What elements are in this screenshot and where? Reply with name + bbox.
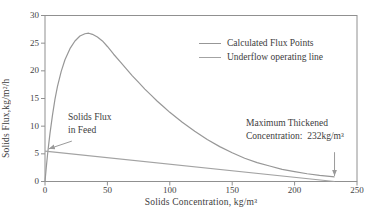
annotation-max-thickened-concentration: Maximum Thickened Concentration: 232kg/m… [246,117,344,142]
x-axis-title: Solids Concentration, kg/m³ [45,197,357,207]
legend-line-sample [199,57,221,58]
annotation-text-line: in Feed [68,124,112,137]
annotation-text-line: Concentration: 232kg/m³ [246,130,344,143]
x-tick-label: 50 [103,185,112,195]
x-tick-label: 250 [350,185,364,195]
legend-item-calculated-flux: Calculated Flux Points [199,36,323,50]
annotation-arrow-0 [49,141,72,149]
y-axis-title: Solids Flux,kg/m²/h [1,60,12,176]
y-tick-label: 0 [13,176,39,186]
x-tick-label: 200 [288,185,302,195]
y-tick-label: 30 [13,10,39,20]
annotation-text-line: Solids Flux [68,111,112,124]
legend-line-sample [199,43,221,44]
annotation-solids-flux-in-feed: Solids Flux in Feed [68,111,112,136]
legend-label: Underflow operating line [227,52,323,62]
annotation-text-line: Maximum Thickened [246,117,344,130]
plot-canvas [0,0,375,223]
y-tick-label: 10 [13,121,39,131]
y-tick-label: 20 [13,65,39,75]
y-tick-label: 25 [13,38,39,48]
legend: Calculated Flux Points Underflow operati… [199,36,323,64]
legend-item-underflow-line: Underflow operating line [199,50,323,64]
x-tick-label: 0 [43,185,48,195]
y-tick-label: 15 [13,93,39,103]
legend-label: Calculated Flux Points [227,38,314,48]
x-tick-label: 100 [163,185,177,195]
x-tick-label: 150 [225,185,239,195]
flux-chart: Solids Flux,kg/m²/h Solids Concentration… [0,0,375,223]
series-line-1 [45,151,335,181]
y-tick-label: 5 [13,148,39,158]
